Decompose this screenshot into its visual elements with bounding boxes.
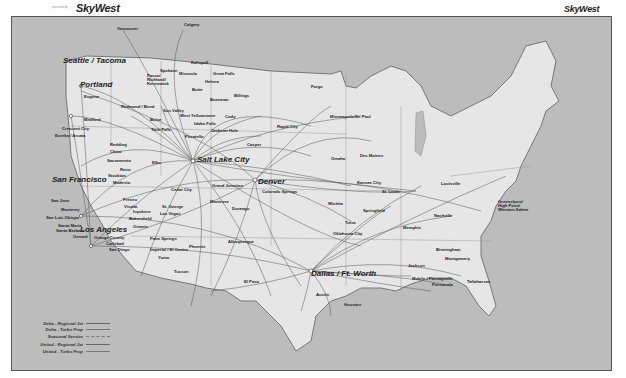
- city-label: Cody: [225, 115, 235, 119]
- city-label: Wichita: [328, 202, 343, 206]
- city-label: Orange County: [94, 236, 124, 240]
- city-label: Redding: [110, 143, 127, 147]
- city-label: West Yellowstone: [180, 114, 215, 118]
- city-label: Bozeman: [210, 98, 229, 102]
- city-label: Greensboro/ High Point/ Winston-Salem: [498, 200, 533, 213]
- city-label: Jackson Hole: [211, 129, 238, 133]
- city-label: Idaho Falls: [194, 122, 216, 126]
- hub-label-los-angeles: Los Angeles: [80, 226, 127, 234]
- city-label: Fargo: [311, 85, 323, 89]
- city-label: Louisville: [441, 182, 460, 186]
- city-label: Montrose: [210, 200, 229, 204]
- city-label: Spokane: [160, 69, 177, 73]
- city-label: Reno: [120, 168, 130, 172]
- city-label: Chico: [110, 150, 122, 154]
- hub-label-salt-lake-city: Salt Lake City: [197, 156, 249, 164]
- city-label: Billings: [234, 94, 249, 98]
- city-label: Fresno: [123, 198, 137, 202]
- city-label: Kalispell: [191, 61, 208, 65]
- legend-item: United - Turbo Prop: [22, 348, 110, 355]
- city-label: Pensacola: [432, 283, 453, 287]
- legend-item: Seasonal Service: [22, 333, 110, 340]
- city-label: Colorado Springs: [262, 190, 297, 194]
- hub-label-san-francisco: San Francisco: [52, 176, 107, 184]
- city-label: Oxnard: [73, 235, 88, 239]
- operated-by-text: operated by: [52, 5, 68, 9]
- city-label: Eugene: [84, 95, 99, 99]
- city-label: Austin: [316, 293, 329, 297]
- city-label: Redmond / Bend: [121, 105, 154, 109]
- city-label: Las Vegas: [160, 212, 181, 216]
- city-label: Elko: [152, 161, 161, 165]
- city-label: Kansas City: [357, 181, 381, 185]
- city-label: Palm Springs: [150, 237, 177, 241]
- city-label: Stockton: [108, 174, 126, 178]
- city-label: Casper: [247, 143, 261, 147]
- city-label: Rapid City: [277, 125, 298, 129]
- city-label: Durango: [232, 207, 249, 211]
- city-label: Houston: [344, 303, 361, 307]
- city-label: Crescent City: [62, 127, 89, 131]
- skywest-logo-right: SkyWest: [564, 4, 599, 14]
- city-label: Inyokern: [133, 210, 150, 214]
- city-label: El Paso: [244, 280, 259, 284]
- city-label: Cedar City: [171, 188, 192, 192]
- city-label: Bakersfield: [129, 217, 152, 221]
- city-label: Modesto: [113, 181, 130, 185]
- city-label: Missoula: [179, 72, 197, 76]
- city-label: Grand Junction: [212, 184, 243, 188]
- hub-label-denver: Denver: [258, 178, 285, 186]
- city-label: Nashville: [434, 214, 452, 218]
- city-label: Vancouver: [117, 27, 138, 31]
- route-map: [11, 16, 612, 371]
- city-label: Santa Barbara: [56, 229, 84, 233]
- map-legend: Delta - Regional Jet Delta - Turbo Prop …: [22, 320, 110, 355]
- city-label: Tucson: [174, 270, 189, 274]
- city-label: Imperial / El Centro: [150, 248, 188, 252]
- city-label: Helena: [205, 80, 219, 84]
- city-label: Birmingham: [436, 248, 460, 252]
- city-label: Great Falls: [213, 72, 235, 76]
- city-label: Sacramento: [107, 159, 131, 163]
- skywest-logo-left: SkyWest: [76, 2, 120, 14]
- city-label: Monterey: [61, 208, 80, 212]
- city-label: Minneapolis/St. Paul: [330, 115, 371, 119]
- city-label: Jackson: [408, 264, 425, 268]
- city-label: Yuma: [158, 256, 169, 260]
- city-label: Montgomery: [445, 257, 470, 261]
- city-label: St. George: [162, 205, 183, 209]
- city-label: Tallahassee: [467, 280, 490, 284]
- city-label: Medford: [84, 118, 101, 122]
- city-label: San Diego: [109, 248, 129, 252]
- city-label: Mobile / Pascagoula: [412, 277, 452, 281]
- city-label: St. Louis: [382, 190, 400, 194]
- city-label: Albuquerque: [228, 240, 254, 244]
- hub-label-portland: Portland: [80, 81, 112, 89]
- city-label: Memphis: [403, 226, 421, 230]
- city-label: Omaha: [331, 157, 345, 161]
- city-label: Springfield: [363, 209, 385, 213]
- city-label: Ontario: [133, 225, 148, 229]
- city-label: Eureka / Arcata: [55, 134, 85, 138]
- city-label: San Jose: [51, 199, 69, 203]
- hub-label-dallas: Dallas / Ft. Worth: [311, 270, 376, 278]
- city-label: San Luis Obispo: [46, 216, 79, 220]
- city-label: Twin Falls: [151, 128, 171, 132]
- city-label: Boise: [150, 118, 161, 122]
- city-label: Oklahoma City: [333, 232, 362, 236]
- city-label: Butte: [192, 88, 203, 92]
- city-label: Carlsbad: [106, 242, 124, 246]
- city-label: Pocatello: [185, 135, 204, 139]
- city-label: Phoenix: [189, 245, 205, 249]
- city-label: Pasco/ Richland/ Kennewick: [147, 74, 167, 87]
- hub-label-seattle: Seattle / Tacoma: [63, 57, 126, 65]
- city-label: Des Moines: [360, 154, 383, 158]
- city-label: Tulsa: [345, 221, 356, 225]
- city-label: Calgary: [184, 23, 199, 27]
